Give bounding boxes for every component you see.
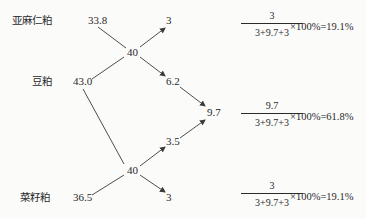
- difference-mid-lower: 3.5: [166, 135, 180, 147]
- ingredient-name-soybean-meal: 豆粕: [32, 75, 52, 87]
- protein-value-linseed: 33.8: [88, 14, 107, 26]
- connector-lines: [0, 0, 366, 219]
- difference-mid-upper: 6.2: [166, 75, 180, 87]
- ingredient-name-rapeseed-meal: 菜籽粕: [20, 191, 50, 203]
- protein-value-rapeseed: 36.5: [73, 191, 92, 203]
- formula-result-rapeseed: ×100%=19.1%: [290, 191, 353, 202]
- difference-top-right: 3: [166, 14, 172, 26]
- target-node-top: 40: [127, 46, 138, 58]
- formula-result-soybean: ×100%=61.8%: [290, 111, 353, 122]
- difference-sum: 9.7: [207, 106, 221, 118]
- protein-value-soybean: 43.0: [73, 75, 92, 87]
- target-node-bottom: 40: [127, 164, 138, 176]
- difference-bottom-right: 3: [166, 191, 172, 203]
- formula-result-linseed: ×100%=19.1%: [290, 21, 353, 32]
- ingredient-name-linseed-meal: 亚麻仁粕: [12, 14, 52, 26]
